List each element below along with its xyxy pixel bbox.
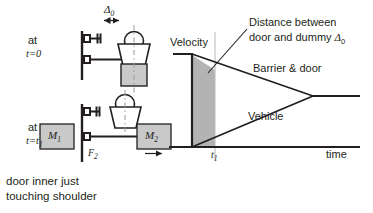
force-f2-label: F2 bbox=[88, 147, 98, 158]
shoulder-connector-top bbox=[84, 34, 101, 44]
scene-t1 bbox=[40, 90, 171, 162]
velocity-axis-label: Velocity bbox=[170, 36, 208, 48]
state-t0-at-label: at bbox=[28, 34, 37, 46]
t1-tick-label: t1 bbox=[211, 149, 218, 160]
velocity-time-chart bbox=[169, 29, 360, 160]
vehicle-label: Vehicle bbox=[248, 110, 283, 122]
shoulder-connector-bottom bbox=[84, 107, 100, 117]
state-t1-time-text: t=t bbox=[26, 135, 39, 146]
state-t0-time-label: t=0 bbox=[26, 48, 41, 60]
state-t1-time-label: t=t1 bbox=[26, 135, 43, 147]
mass-m2-label: M2 bbox=[145, 129, 158, 141]
barrier-door-curve bbox=[192, 54, 360, 96]
mass-m1-label: M1 bbox=[48, 129, 61, 141]
scene-t0 bbox=[82, 21, 150, 97]
mass-m1-symbol: M bbox=[48, 129, 57, 141]
state-t1-time-subscript: 1 bbox=[39, 140, 43, 149]
figure-root: at t=0 Δ0 at t=t1 M1 M2 F2 door inner ju… bbox=[0, 0, 373, 213]
callout-text-line-2-text: door and dummy bbox=[249, 31, 335, 43]
mass-m2-symbol: M bbox=[145, 129, 154, 141]
callout-text-line-1: Distance between bbox=[249, 16, 336, 28]
caption-line-2: touching shoulder bbox=[6, 190, 97, 203]
mass-m1-subscript: 1 bbox=[57, 135, 61, 144]
gap-delta-label: Δ0 bbox=[104, 3, 114, 15]
barrier-door-label: Barrier & door bbox=[253, 62, 321, 74]
t1-tick-subscript: 1 bbox=[214, 154, 218, 163]
hip-connector-top bbox=[84, 56, 121, 63]
force-f2-subscript: 2 bbox=[94, 152, 98, 161]
gap-delta-subscript: 0 bbox=[110, 9, 114, 18]
callout-delta-subscript: 0 bbox=[341, 37, 345, 46]
callout-text-line-2: door and dummy Δ0 bbox=[249, 31, 345, 43]
state-t1-at-label: at bbox=[28, 121, 37, 133]
mass-m2-subscript: 2 bbox=[154, 135, 158, 144]
caption-line-1: door inner just bbox=[6, 175, 79, 188]
time-axis-label: time bbox=[326, 148, 347, 160]
hip-connector-bottom bbox=[84, 133, 137, 140]
